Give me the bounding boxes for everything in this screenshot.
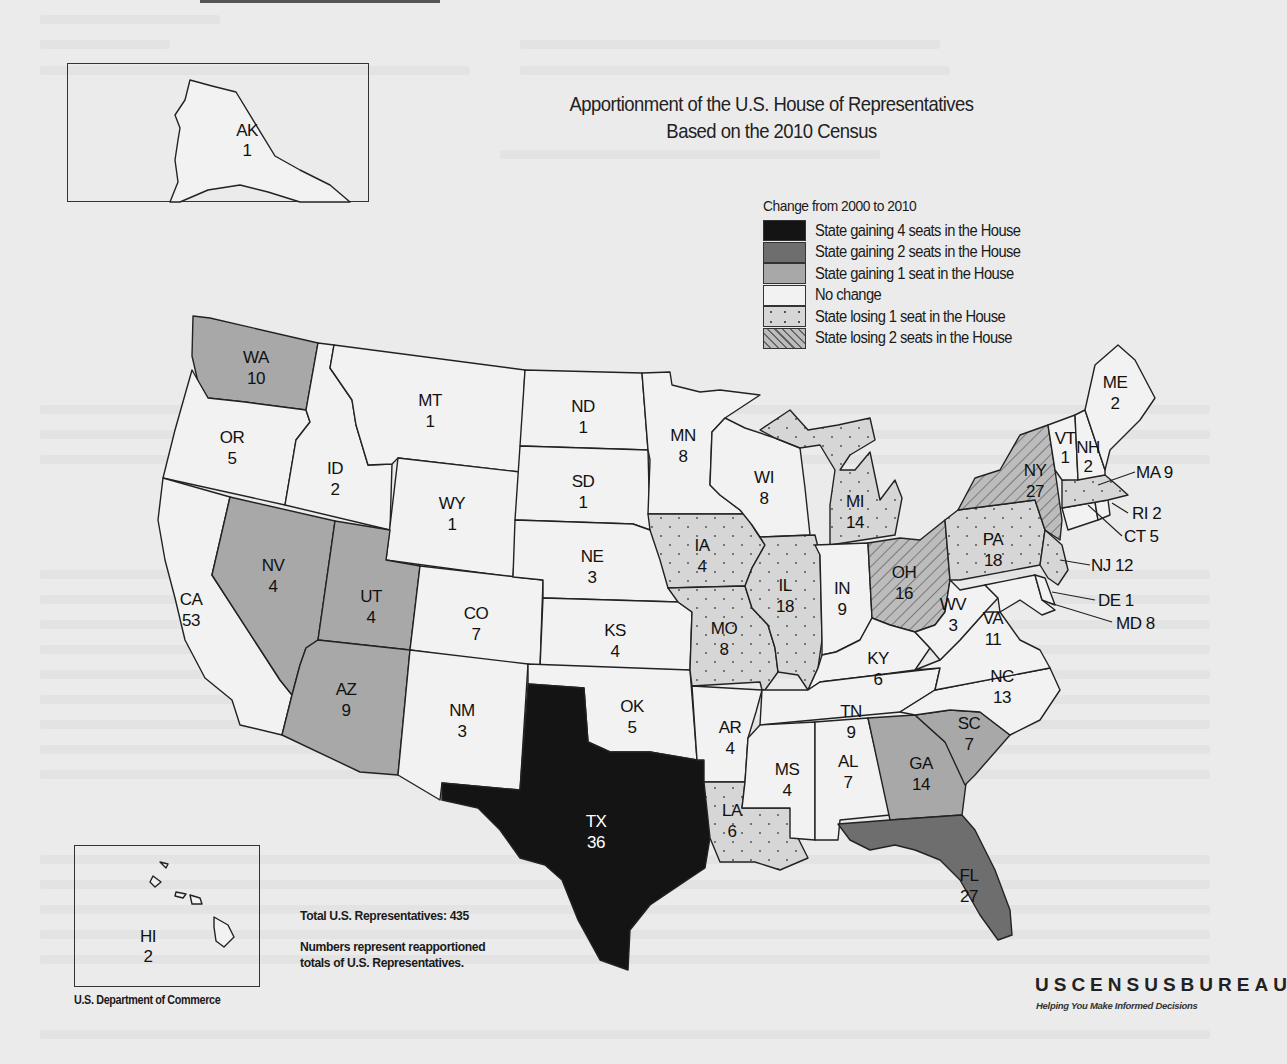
svg-text:8: 8: [720, 640, 729, 659]
svg-text:2: 2: [1111, 394, 1120, 413]
svg-text:7: 7: [965, 735, 974, 754]
svg-text:4: 4: [367, 608, 376, 627]
svg-text:4: 4: [269, 577, 278, 596]
svg-text:NJ 12: NJ 12: [1091, 556, 1133, 575]
svg-text:NM: NM: [449, 701, 474, 720]
census-bureau-logo: USCENSUSBUREAU: [1035, 974, 1287, 996]
svg-text:ND: ND: [571, 397, 595, 416]
svg-text:IN: IN: [834, 579, 850, 598]
svg-text:OH: OH: [892, 563, 917, 582]
legend-swatch-lose1: [763, 306, 806, 327]
explanation-line1: Numbers represent reapportioned: [300, 939, 485, 954]
legend-item-gain2: State gaining 2 seats in the House: [763, 242, 1038, 264]
svg-text:2: 2: [1084, 457, 1093, 476]
svg-text:3: 3: [949, 616, 958, 635]
svg-text:WV: WV: [940, 595, 968, 614]
svg-text:SC: SC: [958, 714, 981, 733]
svg-text:WY: WY: [439, 494, 466, 513]
legend-item-lose1: State losing 1 seat in the House: [763, 306, 1038, 328]
svg-text:53: 53: [182, 611, 200, 630]
svg-text:IL: IL: [778, 576, 791, 595]
svg-text:3: 3: [458, 722, 467, 741]
svg-text:HI: HI: [140, 927, 156, 946]
svg-text:18: 18: [984, 551, 1002, 570]
svg-text:TN: TN: [840, 702, 862, 721]
svg-text:AK: AK: [236, 121, 259, 140]
svg-text:GA: GA: [909, 754, 934, 773]
svg-text:10: 10: [247, 369, 265, 388]
svg-text:4: 4: [698, 557, 707, 576]
svg-text:36: 36: [587, 833, 605, 852]
state-fl: [838, 815, 1012, 940]
department-credit: U.S. Department of Commerce: [74, 993, 220, 1007]
svg-text:16: 16: [895, 584, 913, 603]
svg-text:3: 3: [588, 568, 597, 587]
svg-text:1: 1: [243, 141, 252, 160]
svg-text:5: 5: [628, 718, 637, 737]
svg-text:NC: NC: [990, 667, 1014, 686]
svg-text:AL: AL: [838, 752, 858, 771]
svg-text:CA: CA: [180, 590, 204, 609]
legend-swatch-gain2: [763, 242, 806, 263]
legend-swatch-lose2: [763, 328, 806, 349]
svg-text:OK: OK: [620, 697, 645, 716]
legend-item-gain1: State gaining 1 seat in the House: [763, 263, 1038, 285]
svg-text:DE 1: DE 1: [1098, 591, 1134, 610]
svg-text:8: 8: [760, 489, 769, 508]
svg-text:LA: LA: [722, 801, 743, 820]
svg-text:WI: WI: [754, 468, 774, 487]
legend-item-gain4: State gaining 4 seats in the House: [763, 220, 1038, 242]
svg-text:MI: MI: [846, 492, 864, 511]
svg-text:7: 7: [472, 625, 481, 644]
svg-text:1: 1: [448, 515, 457, 534]
legend-item-nochange: No change: [763, 285, 1038, 307]
state-nj: [1040, 530, 1068, 585]
svg-text:8: 8: [679, 447, 688, 466]
svg-text:27: 27: [960, 887, 978, 906]
svg-text:11: 11: [985, 630, 1002, 649]
us-apportionment-map: AK 1 HI 2: [0, 0, 1287, 1064]
census-tagline: Helping You Make Informed Decisions: [1036, 1000, 1198, 1011]
explanation-line2: totals of U.S. Representatives.: [300, 955, 464, 970]
svg-text:OR: OR: [220, 428, 245, 447]
svg-text:MT: MT: [418, 391, 442, 410]
svg-text:18: 18: [776, 597, 794, 616]
svg-text:4: 4: [611, 642, 620, 661]
state-hi: HI 2: [140, 862, 234, 966]
svg-text:2: 2: [331, 480, 340, 499]
svg-text:AR: AR: [719, 718, 742, 737]
svg-text:WA: WA: [243, 348, 270, 367]
svg-text:MO: MO: [711, 619, 738, 638]
svg-text:7: 7: [844, 773, 853, 792]
legend-swatch-nochange: [763, 285, 806, 306]
svg-text:4: 4: [726, 739, 735, 758]
svg-text:4: 4: [783, 781, 792, 800]
svg-text:27: 27: [1026, 482, 1044, 501]
svg-text:1: 1: [579, 418, 588, 437]
svg-text:5: 5: [228, 449, 237, 468]
svg-text:RI 2: RI 2: [1132, 504, 1161, 523]
svg-text:MD 8: MD 8: [1116, 614, 1155, 633]
svg-text:CT 5: CT 5: [1124, 527, 1159, 546]
svg-text:14: 14: [846, 513, 864, 532]
svg-text:NE: NE: [581, 547, 604, 566]
legend-swatch-gain1: [763, 263, 806, 284]
svg-text:2: 2: [144, 947, 153, 966]
svg-text:14: 14: [912, 775, 930, 794]
svg-text:6: 6: [874, 670, 883, 689]
svg-text:FL: FL: [960, 866, 979, 885]
svg-text:IA: IA: [694, 536, 710, 555]
svg-text:1: 1: [426, 412, 435, 431]
svg-text:PA: PA: [983, 530, 1005, 549]
svg-text:9: 9: [838, 600, 847, 619]
svg-text:MA 9: MA 9: [1136, 463, 1173, 482]
svg-text:ME: ME: [1103, 373, 1128, 392]
svg-text:9: 9: [847, 723, 856, 742]
svg-text:NV: NV: [262, 556, 286, 575]
svg-text:TX: TX: [586, 812, 607, 831]
svg-text:ID: ID: [327, 459, 343, 478]
svg-text:UT: UT: [360, 587, 382, 606]
svg-text:MN: MN: [670, 426, 695, 445]
svg-text:13: 13: [993, 688, 1011, 707]
legend-item-lose2: State losing 2 seats in the House: [763, 328, 1038, 350]
